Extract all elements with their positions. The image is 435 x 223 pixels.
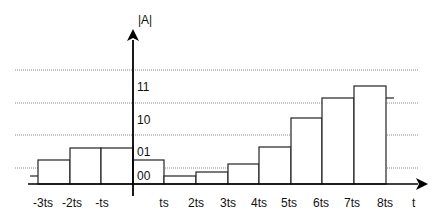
bar-3ts [228, 164, 259, 184]
x-tick-label: 4ts [251, 196, 267, 210]
y-axis-label: |A| [138, 13, 152, 27]
bar-7ts [354, 86, 386, 184]
level-label-11: 11 [137, 80, 150, 94]
bar-negts [101, 148, 133, 184]
bar-neg3ts [38, 160, 70, 184]
level-label-10: 10 [137, 113, 151, 127]
x-tick-label: -2ts [62, 196, 82, 210]
bar-ts [164, 176, 196, 184]
x-tick-label: -3ts [33, 196, 53, 210]
level-label-00: 00 [137, 169, 151, 183]
level-label-01: 01 [137, 145, 151, 159]
x-axis-label: t [412, 196, 416, 210]
bar-2ts [196, 172, 228, 184]
quantization-diagram: |A| t 11 10 01 00 -3ts -2ts -ts ts 2ts 3… [0, 0, 435, 223]
x-tick-label: 7ts [344, 196, 360, 210]
bar-4ts [259, 147, 291, 184]
x-tick-label: 2ts [188, 196, 204, 210]
bar-6ts [322, 98, 354, 184]
x-tick-label: 5ts [281, 196, 297, 210]
x-tick-label: 6ts [313, 196, 329, 210]
y-axis-arrow-icon [127, 29, 139, 41]
x-tick-label: -ts [95, 196, 108, 210]
bar-neg2ts [70, 148, 101, 184]
x-tick-label: 3ts [220, 196, 236, 210]
bar-5ts [291, 118, 322, 184]
x-tick-labels: -3ts -2ts -ts ts 2ts 3ts 4ts 5ts 6ts 7ts… [33, 196, 393, 210]
x-tick-label: ts [159, 196, 168, 210]
x-tick-label: 8ts [377, 196, 393, 210]
